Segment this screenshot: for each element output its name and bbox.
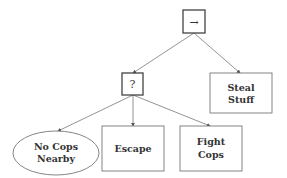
fallback-node: ? — [122, 73, 143, 95]
action-steal-stuff: Steal Stuff — [210, 73, 272, 113]
action-escape: Escape — [102, 126, 164, 171]
fight-cops-line1: Fight — [197, 136, 226, 147]
condition-no-cops-nearby: No Cops Nearby — [13, 131, 99, 175]
no-cops-line2: Nearby — [37, 153, 76, 164]
edge-root-to-steal — [194, 33, 240, 73]
edge-fallback-to-fight — [133, 95, 210, 126]
fight-cops-line2: Cops — [198, 149, 224, 160]
behavior-tree-diagram: → ? Steal Stuff No Cops Nearby Escape Fi… — [0, 0, 287, 178]
edge-root-to-fallback — [133, 33, 194, 73]
fallback-question-icon: ? — [130, 78, 136, 91]
steal-stuff-line2: Stuff — [228, 94, 255, 105]
steal-stuff-line1: Steal — [227, 82, 254, 93]
sequence-arrow-icon: → — [189, 16, 198, 29]
sequence-node: → — [183, 10, 205, 33]
action-fight-cops: Fight Cops — [180, 126, 242, 171]
escape-label: Escape — [114, 143, 151, 154]
no-cops-line1: No Cops — [34, 141, 78, 152]
